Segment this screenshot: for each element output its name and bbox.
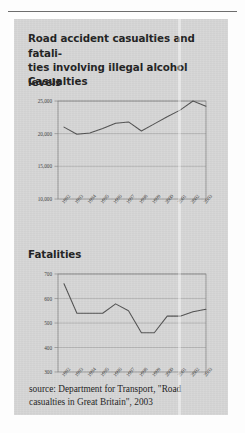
section-label-fatalities: Fatalities	[28, 248, 81, 260]
x-tick-labels-casualties: 1992 1993 1994 1995 1996 1997 1998 1999 …	[60, 193, 213, 205]
x-tick-label: 1992	[60, 193, 71, 205]
x-tick-label: 1996	[112, 193, 123, 205]
x-tick-label: 1999	[150, 366, 161, 378]
x-tick-label: 2001	[176, 366, 187, 378]
source-note-line-2: casualties in Great Britain", 2003	[29, 397, 153, 407]
figure-panel: Road accident casualties and fatali- tie…	[14, 19, 228, 415]
plot-frame-casualties	[58, 101, 206, 199]
chart-fatalities-svg: 700 600 500 400 300	[28, 268, 214, 398]
y-tick-label: 25,000	[38, 98, 53, 104]
series-line-fatalities	[64, 284, 206, 333]
x-tick-label: 1993	[73, 366, 84, 378]
x-tick-label: 2003	[202, 366, 213, 378]
x-tick-label: 2001	[176, 193, 187, 205]
y-tick-label: 15,000	[38, 163, 53, 169]
x-tick-label: 1999	[150, 193, 161, 205]
source-note-line-1: source: Department for Transport, "Road	[29, 384, 181, 394]
x-tick-labels-fatalities: 1992 1993 1994 1995 1996 1997 1998 1999 …	[60, 366, 213, 378]
y-tick-label: 500	[44, 320, 52, 326]
x-tick-label: 1996	[112, 366, 123, 378]
series-line-casualties	[64, 101, 206, 134]
y-ticks-fatalities	[55, 274, 59, 372]
x-tick-label: 2002	[189, 193, 200, 205]
x-tick-label: 1994	[86, 193, 97, 205]
x-tick-label: 1995	[99, 366, 110, 378]
y-tick-label: 10,000	[38, 196, 53, 202]
source-note: source: Department for Transport, "Road …	[29, 383, 215, 409]
y-ticks-casualties	[55, 101, 59, 199]
chart-casualties: 25,000 20,000 15,000 10,000	[28, 95, 214, 225]
x-tick-label: 1992	[60, 366, 71, 378]
x-tick-label: 1995	[99, 193, 110, 205]
x-tick-label: 1997	[125, 193, 136, 205]
page-background: Road accident casualties and fatali- tie…	[0, 0, 245, 433]
x-tick-label: 1998	[138, 193, 149, 205]
y-tick-label: 300	[44, 369, 52, 375]
y-tick-label: 400	[44, 345, 52, 351]
x-tick-label: 1998	[138, 366, 149, 378]
x-tick-label: 2000	[163, 193, 174, 205]
section-label-casualties: Casualties	[28, 75, 88, 87]
x-tick-label: 2003	[202, 193, 213, 205]
x-tick-label: 1994	[86, 366, 97, 378]
x-tick-label: 1993	[73, 193, 84, 205]
chart-fatalities: 700 600 500 400 300	[28, 268, 214, 398]
y-tick-label: 20,000	[38, 131, 53, 137]
y-tick-labels-casualties: 25,000 20,000 15,000 10,000	[38, 98, 53, 202]
gridlines-fatalities	[58, 274, 206, 348]
figure-title-line-1: Road accident casualties and fatali-	[28, 32, 195, 59]
y-tick-label: 700	[44, 271, 52, 277]
x-tick-label: 1997	[125, 366, 136, 378]
chart-casualties-svg: 25,000 20,000 15,000 10,000	[28, 95, 214, 225]
y-tick-labels-fatalities: 700 600 500 400 300	[44, 271, 52, 375]
horizontal-rule	[8, 11, 237, 12]
x-tick-label: 2002	[189, 366, 200, 378]
x-tick-label: 2000	[163, 366, 174, 378]
y-tick-label: 600	[44, 296, 52, 302]
